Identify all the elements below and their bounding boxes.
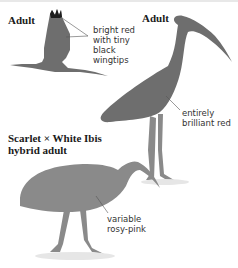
label-line: bright red	[93, 25, 135, 35]
standing-adult-label: entirely brilliant red	[182, 108, 231, 128]
hybrid-label: variable rosy-pink	[107, 214, 146, 234]
heading-line: Scarlet × White Ibis	[8, 132, 102, 144]
heading-line: hybrid adult	[8, 144, 102, 156]
standing-adult-heading: Adult	[142, 12, 169, 24]
flying-adult-label: bright red with tiny black wingtips	[93, 25, 135, 65]
label-line: variable	[107, 214, 146, 224]
hybrid-heading: Scarlet × White Ibis hybrid adult	[8, 132, 102, 156]
hybrid-ibis-illustration	[20, 161, 160, 260]
label-line: with tiny	[93, 35, 135, 45]
label-line: black	[93, 45, 135, 55]
flying-adult-heading: Adult	[8, 14, 35, 26]
label-line: entirely	[182, 108, 231, 118]
label-line: wingtips	[93, 55, 135, 65]
label-line: brilliant red	[182, 118, 231, 128]
label-line: rosy-pink	[107, 224, 146, 234]
